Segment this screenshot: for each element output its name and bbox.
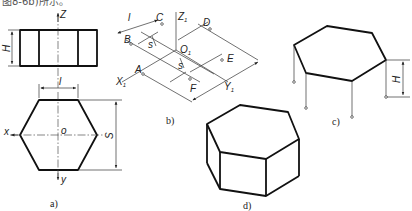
prism-top-face [207,105,299,159]
front-view-rect [20,30,97,66]
label-o: o [61,125,67,136]
label-a: A [134,64,142,75]
caption-a: a) [50,198,58,210]
top-hexagon-face [294,26,386,81]
label-y: y [60,174,67,185]
label-y1: Y1 [224,81,234,93]
figure-b-axonometric-construction: Z1 X1 Y1 l s s C D B O1 A [115,11,258,127]
figure-a-orthographic-views: Z H l x o y S a) [1,9,122,210]
label-x1: X1 [115,76,126,88]
header-fragment-text: 图8-6b)所示。 [2,0,69,7]
label-x: x [3,126,10,137]
figure-c-top-face-with-drop-lines: H c) [293,26,410,128]
hexagonal-prism-diagram: 图8-6b)所示。 Z H l x o y S a) [0,0,412,211]
caption-c: c) [332,116,340,128]
caption-d: d) [243,200,251,211]
label-s: S [104,132,115,139]
label-c: C [156,12,164,23]
label-l-b: l [128,12,131,23]
label-h: H [1,44,12,52]
label-b: B [124,34,131,45]
caption-b: b) [166,115,174,127]
label-z1: Z1 [177,11,187,23]
label-o1: O1 [180,44,191,56]
label-h-c: H [391,75,402,83]
label-f: F [190,83,197,94]
figure-d-hexagonal-prism: d) [207,105,299,211]
label-z: Z [59,9,67,20]
label-d: D [203,17,210,28]
label-l: l [59,76,62,87]
label-s2: s [178,60,183,71]
label-e: E [227,53,234,64]
label-s1: s [148,39,153,50]
